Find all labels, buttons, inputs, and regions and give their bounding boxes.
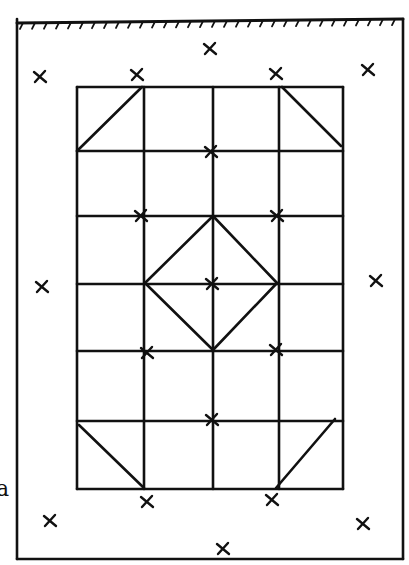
diagonal-1	[282, 87, 341, 146]
diagonal-2	[145, 216, 213, 283]
diagonal-7	[276, 419, 335, 488]
x-marks	[34, 43, 382, 554]
diagonal-3	[213, 216, 277, 283]
diagonal-4	[145, 283, 213, 350]
side-label-a: a	[0, 478, 9, 500]
garden-plan-drawing	[0, 0, 409, 565]
diagonal-5	[213, 283, 277, 350]
grid-lines	[77, 87, 343, 489]
diagonal-0	[77, 87, 142, 151]
outer-border	[17, 19, 403, 559]
diagonal-6	[79, 425, 144, 488]
